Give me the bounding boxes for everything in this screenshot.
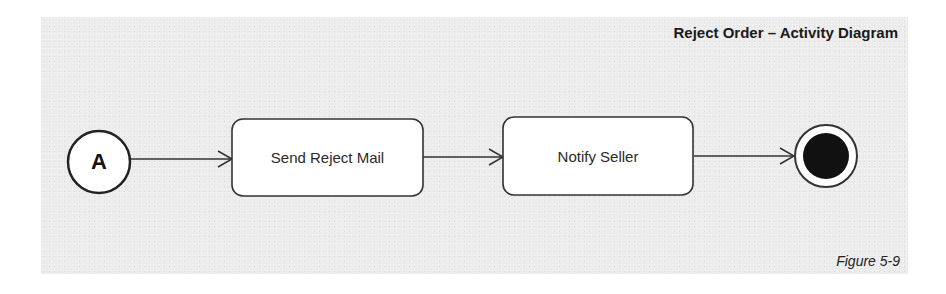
send-reject-mail-label: Send Reject Mail [232,119,423,196]
flow-arrow-a-to-send [131,151,232,167]
flow-arrow-notify-to-end [694,148,794,164]
connector-a-label: A [68,131,130,193]
notify-seller-label: Notify Seller [503,117,693,195]
flow-arrow-send-to-notify [423,149,503,165]
figure-caption: Figure 5-9 [836,253,900,269]
final-node [795,125,857,187]
activity-diagram [0,0,946,294]
